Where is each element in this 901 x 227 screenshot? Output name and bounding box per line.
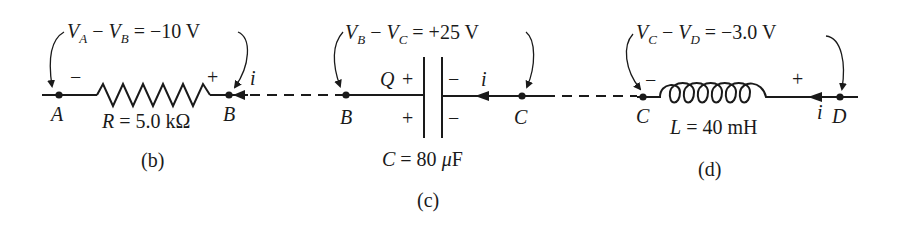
node-c-label: C <box>514 106 528 128</box>
inductor-coil <box>657 83 790 103</box>
resistor-zigzag <box>97 84 210 106</box>
polarity-plus-top: + <box>402 68 413 90</box>
polarity-plus: + <box>207 66 218 88</box>
circuit-diagram: VA − VB = −10 V − + i A B R = 5.0 kΩ (b)… <box>0 0 901 227</box>
current-label: i <box>817 101 823 123</box>
voltage-label: VC − VD = −3.0 V <box>636 21 777 47</box>
polarity-plus-bottom: + <box>402 107 413 129</box>
voltage-arrow-right-icon <box>826 36 843 89</box>
caption-b: (b) <box>141 149 164 172</box>
node-a-label: A <box>49 103 64 125</box>
current-label: i <box>481 68 487 90</box>
node-b-label: B <box>340 106 352 128</box>
capacitance-value: C = 80 μF <box>382 148 463 171</box>
voltage-arrow-right-icon <box>235 32 247 87</box>
resistance-value: R = 5.0 kΩ <box>101 110 190 132</box>
polarity-minus: − <box>70 66 81 88</box>
polarity-minus: − <box>645 69 656 91</box>
node-b-dot <box>225 91 232 98</box>
node-b-dot <box>342 91 349 98</box>
node-c-dot <box>518 92 525 99</box>
caption-c: (c) <box>417 189 439 212</box>
polarity-minus-bottom: − <box>448 107 459 129</box>
node-c-label: C <box>636 105 650 127</box>
voltage-arrow-left-icon <box>334 32 343 86</box>
panel-c-capacitor: VB − VC = +25 V Q + − i + − B C C = 80 μ… <box>334 21 545 212</box>
polarity-plus: + <box>792 68 803 90</box>
voltage-arrow-left-icon <box>50 32 64 86</box>
voltage-label: VA − VB = −10 V <box>67 20 201 46</box>
node-d-label: D <box>831 105 847 127</box>
current-arrow-icon <box>233 90 245 100</box>
panel-b-resistor: VA − VB = −10 V − + i A B R = 5.0 kΩ (b) <box>42 20 256 172</box>
polarity-minus-top: − <box>448 68 459 90</box>
node-c-dot <box>639 93 646 100</box>
charge-label: Q <box>380 68 395 90</box>
voltage-label: VB − VC = +25 V <box>345 21 480 47</box>
current-label: i <box>250 67 256 89</box>
caption-d: (d) <box>698 158 721 181</box>
node-b-label: B <box>223 103 235 125</box>
inductance-value: L = 40 mH <box>669 116 757 138</box>
current-arrow-icon <box>475 91 489 101</box>
panel-d-inductor: VC − VD = −3.0 V − + C i D L = 40 mH (d) <box>626 21 858 181</box>
node-d-dot <box>836 93 843 100</box>
voltage-arrow-right-icon <box>526 32 534 87</box>
node-a-dot <box>55 91 62 98</box>
